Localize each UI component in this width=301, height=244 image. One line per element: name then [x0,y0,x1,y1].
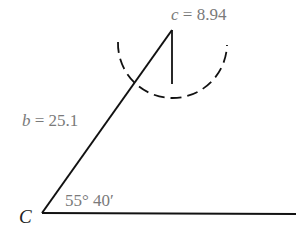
label-c: c = 8.94 [171,6,226,23]
label-c-value: = 8.94 [179,5,227,24]
label-b: b = 25.1 [22,112,78,129]
label-b-value: = 25.1 [31,111,79,130]
label-angle: 55° 40′ [65,192,114,209]
label-b-var: b [22,111,31,130]
base-line [42,213,296,214]
label-c-var: c [171,5,179,24]
vertex-label-C: C [19,207,32,226]
